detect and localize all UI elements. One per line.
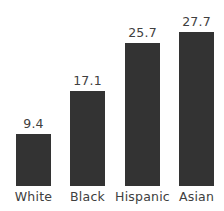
bar-chart: 9.4 17.1 25.7 27.7 White Black Hispanic … [0,0,224,211]
x-axis-tick-labels: White Black Hispanic Asian [0,186,224,211]
plot-area: 9.4 17.1 25.7 27.7 [0,0,224,186]
x-tick-label: Black [58,189,117,204]
bar-value-label: 25.7 [113,25,172,40]
bar-rect[interactable] [70,91,105,186]
x-tick-label: Asian [167,189,224,204]
bar-rect[interactable] [179,32,214,186]
x-tick-label: Hispanic [113,189,172,204]
bar-rect[interactable] [125,43,160,186]
bar-value-label: 27.7 [167,14,224,29]
bar-rect[interactable] [16,134,51,186]
x-tick-label: White [4,189,63,204]
bar-value-label: 9.4 [4,116,63,131]
bar-value-label: 17.1 [58,73,117,88]
